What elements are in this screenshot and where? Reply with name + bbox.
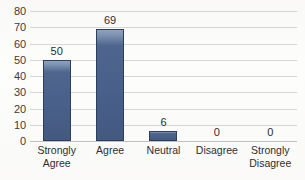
x-axis-category-label: StronglyDisagree xyxy=(244,144,297,170)
x-axis-category-label: Disagree xyxy=(190,144,243,157)
bar[interactable] xyxy=(149,131,177,141)
bar[interactable] xyxy=(96,29,124,141)
y-axis-tick-label: 50 xyxy=(14,54,26,66)
y-axis-tick-label: 70 xyxy=(14,21,26,33)
category-label-line: Strongly xyxy=(251,144,290,156)
bar-value-label: 0 xyxy=(267,126,273,138)
bar-chart: 80706050403020100 5069600 StronglyAgreeA… xyxy=(0,0,305,180)
bar-value-label: 0 xyxy=(214,126,220,138)
category-label-line: Disagree xyxy=(196,144,238,156)
bars-layer: 5069600 xyxy=(30,11,297,141)
category-label-line: Agree xyxy=(96,144,124,156)
bar[interactable] xyxy=(43,60,71,141)
y-axis: 80706050403020100 xyxy=(0,0,30,152)
x-axis: StronglyAgreeAgreeNeutralDisagreeStrongl… xyxy=(30,144,297,180)
y-axis-tick-label: 10 xyxy=(14,119,26,131)
y-axis-tick-label: 60 xyxy=(14,38,26,50)
category-label-line: Strongly xyxy=(37,144,76,156)
gridline xyxy=(30,141,297,142)
y-axis-tick-label: 30 xyxy=(14,86,26,98)
bar-group[interactable]: 0 xyxy=(190,11,243,141)
y-axis-tick-label: 80 xyxy=(14,5,26,17)
y-axis-tick-label: 40 xyxy=(14,70,26,82)
x-axis-category-label: StronglyAgree xyxy=(30,144,83,170)
bar-group[interactable]: 50 xyxy=(30,11,83,141)
x-axis-category-label: Neutral xyxy=(137,144,190,157)
bar-value-label: 6 xyxy=(160,116,166,128)
bar-group[interactable]: 6 xyxy=(137,11,190,141)
y-axis-tick-label: 20 xyxy=(14,103,26,115)
bar-value-label: 69 xyxy=(104,14,116,26)
bar-group[interactable]: 0 xyxy=(244,11,297,141)
x-axis-category-label: Agree xyxy=(83,144,136,157)
category-label-line: Agree xyxy=(30,157,83,170)
category-label-line: Neutral xyxy=(147,144,181,156)
bar-value-label: 50 xyxy=(51,45,63,57)
y-axis-tick-label: 0 xyxy=(20,135,26,147)
bar-group[interactable]: 69 xyxy=(83,11,136,141)
category-label-line: Disagree xyxy=(244,157,297,170)
